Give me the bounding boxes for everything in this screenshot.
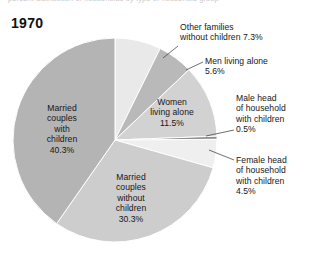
- label-line: Men living alone: [205, 56, 309, 66]
- label-line: living alone: [136, 107, 208, 117]
- label-value: 4.5%: [236, 186, 310, 196]
- label-line: Married: [27, 103, 97, 113]
- label-value: 0.5%: [236, 124, 310, 134]
- label-line: with children: [236, 114, 310, 124]
- slice-label-women-living-alone: Women living alone 11.5%: [136, 97, 208, 128]
- slice-label-female-head-of-household: Female head of household with children 4…: [236, 155, 310, 197]
- slice-label-male-head-of-household: Male head of household with children 0.5…: [236, 93, 310, 135]
- label-line: couples: [96, 182, 166, 192]
- label-line: children: [96, 203, 166, 213]
- slice-label-men-living-alone: Men living alone 5.6%: [205, 56, 309, 77]
- label-line: of household: [236, 165, 310, 175]
- label-line: without: [96, 193, 166, 203]
- label-value: 5.6%: [205, 66, 309, 76]
- label-line: Married: [96, 172, 166, 182]
- slice-label-other-families: Other families without children 7.3%: [180, 22, 304, 43]
- label-value: 30.3%: [96, 214, 166, 224]
- label-line: Other families: [180, 22, 304, 32]
- label-line: children: [27, 134, 97, 144]
- label-line: Women: [136, 97, 208, 107]
- label-value: 40.3%: [27, 145, 97, 155]
- label-line: of household: [236, 103, 310, 113]
- label-line: Female head: [236, 155, 310, 165]
- slice-label-married-with-children: Married couples with children 40.3%: [27, 103, 97, 155]
- label-line: with: [27, 124, 97, 134]
- label-line: with children: [236, 176, 310, 186]
- label-line: without children 7.3%: [180, 32, 304, 42]
- label-line: couples: [27, 113, 97, 123]
- label-value: 11.5%: [136, 118, 208, 128]
- leader-line-men-alone: [186, 62, 203, 70]
- pie-chart-figure: percent distribution of households by ty…: [0, 0, 311, 255]
- slice-label-married-without-children: Married couples without children 30.3%: [96, 172, 166, 224]
- label-line: Male head: [236, 93, 310, 103]
